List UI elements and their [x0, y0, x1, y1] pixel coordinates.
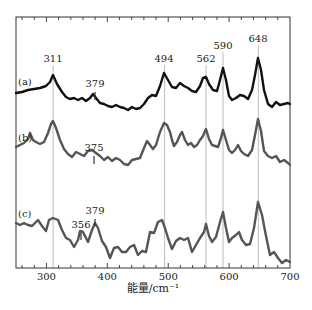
- x-tick-label: 700: [280, 271, 299, 282]
- x-tick-label: 600: [220, 271, 239, 282]
- peak-label: 562: [196, 53, 215, 64]
- x-tick-label: 300: [37, 271, 56, 282]
- peak-label: 648: [248, 33, 267, 44]
- series-group: [16, 58, 290, 263]
- peak-labels: 311379494562590648375356379: [43, 33, 267, 240]
- peak-label: 494: [154, 53, 173, 64]
- series-line-a: [16, 58, 290, 110]
- x-axis-label: 能量/cm⁻¹: [127, 281, 180, 295]
- peak-label: 379: [85, 78, 104, 89]
- trace-label-c: (c): [18, 208, 32, 219]
- x-tick-labels: 300400500600700: [37, 271, 300, 282]
- trace-label-b: (b): [18, 132, 32, 143]
- series-line-c: [16, 202, 290, 263]
- spectrum-chart: 300400500600700 311379494562590648375356…: [0, 0, 312, 310]
- peak-label: 590: [213, 40, 232, 51]
- x-tick-label: 400: [98, 271, 117, 282]
- peak-label: 375: [84, 142, 103, 153]
- peak-label: 311: [43, 53, 62, 64]
- series-line-b: [16, 119, 290, 165]
- peak-label: 356: [71, 219, 90, 230]
- x-tick-label: 500: [159, 271, 178, 282]
- peak-label: 379: [85, 205, 104, 216]
- trace-label-a: (a): [18, 76, 32, 87]
